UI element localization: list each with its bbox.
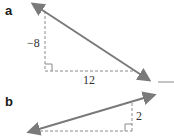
- right-angle-marker-a: [45, 64, 52, 71]
- run-label-a: 12: [83, 73, 95, 87]
- slope-diagrams: a −8 12 b 2: [0, 0, 174, 136]
- diagram-a: a −8 12: [5, 3, 174, 87]
- right-angle-marker-b: [125, 124, 132, 131]
- diagram-b: b 2: [5, 94, 154, 132]
- line-arrow-a: [33, 4, 149, 80]
- rise-label-a: −8: [27, 36, 40, 50]
- rise-label-b: 2: [136, 109, 142, 123]
- part-label-a: a: [5, 3, 13, 18]
- part-label-b: b: [5, 94, 13, 109]
